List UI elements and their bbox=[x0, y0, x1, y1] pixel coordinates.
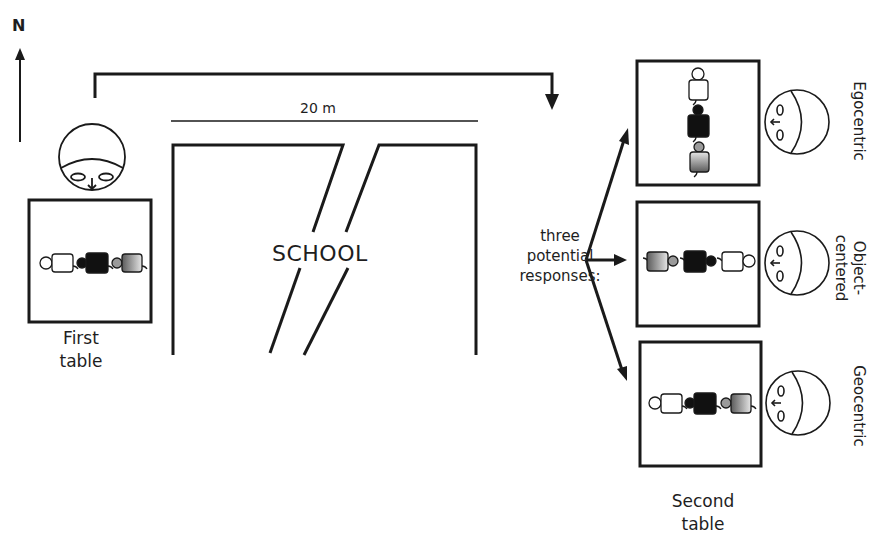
egocentric-figures bbox=[688, 68, 709, 177]
potential-responses-line2: potential bbox=[505, 246, 615, 266]
observer-head-egocentric-icon bbox=[765, 90, 829, 154]
second-table-label-line1: Second bbox=[658, 490, 748, 513]
potential-responses-line1: three bbox=[505, 226, 615, 246]
spatial-frame-diagram bbox=[0, 0, 890, 549]
object-centered-label-line1: Object- bbox=[850, 218, 868, 318]
potential-responses-label: three potential responses: bbox=[505, 226, 615, 286]
north-arrow-icon bbox=[15, 48, 25, 142]
first-table-label-line2: table bbox=[38, 350, 124, 373]
observer-head-icon bbox=[59, 124, 125, 190]
object-centered-label-line2: centered bbox=[832, 218, 850, 318]
observer-head-geocentric-icon bbox=[766, 371, 830, 435]
potential-responses-line3: responses: bbox=[505, 266, 615, 286]
object-centered-label: Object- centered bbox=[832, 218, 868, 318]
first-table-figures bbox=[40, 253, 147, 273]
scale-label: 20 m bbox=[300, 100, 336, 116]
north-label: N bbox=[12, 16, 25, 35]
first-table-label-line1: First bbox=[38, 327, 124, 350]
egocentric-label: Egocentric bbox=[850, 78, 868, 164]
second-table-label: Second table bbox=[658, 490, 748, 536]
geocentric-figures bbox=[649, 393, 756, 414]
second-table-label-line2: table bbox=[658, 513, 748, 536]
first-table-label: First table bbox=[38, 327, 124, 373]
school-label: SCHOOL bbox=[272, 241, 368, 266]
geocentric-label: Geocentric bbox=[850, 363, 868, 449]
object-centered-figures bbox=[643, 251, 755, 272]
observer-head-object-centered-icon bbox=[765, 231, 829, 295]
